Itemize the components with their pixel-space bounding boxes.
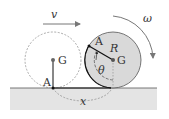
right-center-label: G xyxy=(117,54,126,67)
right-point-a-label: A xyxy=(94,35,104,48)
angle-label: θ xyxy=(98,64,105,77)
right-center-dot xyxy=(111,58,115,62)
left-point-a-dot xyxy=(52,87,55,90)
angular-velocity-label: ω xyxy=(143,12,152,25)
left-point-a-label: A xyxy=(42,76,52,89)
displacement-label: x xyxy=(80,95,87,108)
right-point-a-dot xyxy=(88,45,91,48)
left-center-dot xyxy=(51,58,55,62)
velocity-label: v xyxy=(51,8,58,21)
left-center-label: G xyxy=(58,54,67,67)
rolling-disk-diagram: v ω G A A R G θ x xyxy=(0,0,169,119)
